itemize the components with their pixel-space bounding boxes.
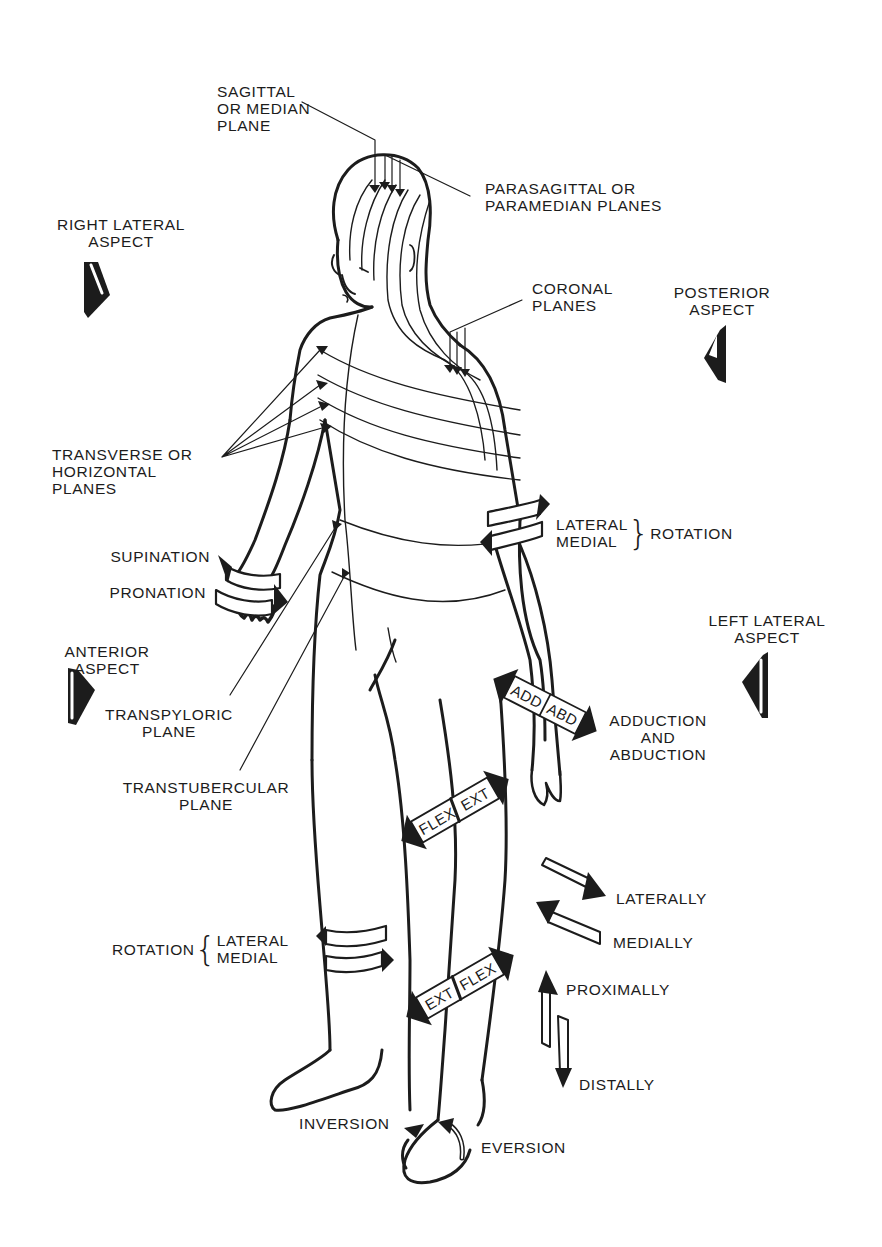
label-arm-rotation: LATERAL MEDIAL }ROTATION <box>556 516 733 550</box>
plane-lines <box>318 180 520 662</box>
medially-arrow <box>536 900 600 944</box>
human-figure <box>234 155 561 1183</box>
label-inversion: INVERSION <box>299 1115 390 1132</box>
label-transpyloric-plane: TRANSPYLORIC PLANE <box>96 706 242 740</box>
distally-arrow <box>555 1016 572 1088</box>
label-proximally: PROXIMALLY <box>566 981 670 998</box>
label-transtubercular-plane: TRANSTUBERCULAR PLANE <box>110 779 302 813</box>
label-laterally: LATERALLY <box>616 890 707 907</box>
label-parasagittal-planes: PARASAGITTAL OR PARAMEDIAN PLANES <box>485 180 662 214</box>
posterior-aspect-marker <box>704 325 726 383</box>
label-anterior-aspect: ANTERIOR ASPECT <box>52 643 162 677</box>
left-lateral-aspect-marker <box>742 652 768 718</box>
label-right-lateral-aspect: RIGHT LATERAL ASPECT <box>45 216 197 250</box>
label-coronal-planes: CORONAL PLANES <box>532 280 613 314</box>
ext-flex-band-lower: EXT FLEX <box>396 938 523 1035</box>
rotation-cuffs <box>216 500 542 972</box>
label-sagittal-plane: SAGITTAL OR MEDIAN PLANE <box>217 83 310 134</box>
label-leg-rotation: ROTATION{ LATERAL MEDIAL <box>112 932 289 966</box>
leader-lines <box>222 102 522 770</box>
label-medially: MEDIALLY <box>613 934 693 951</box>
label-left-lateral-aspect: LEFT LATERAL ASPECT <box>700 612 834 646</box>
label-pronation: PRONATION <box>60 584 206 601</box>
label-transverse-planes: TRANSVERSE OR HORIZONTAL PLANES <box>52 446 192 497</box>
anatomy-diagram: ADD ABD FLEX EXT EXT FLEX <box>0 0 882 1247</box>
label-posterior-aspect: POSTERIOR ASPECT <box>666 284 778 318</box>
laterally-arrow <box>542 858 606 900</box>
right-lateral-aspect-marker <box>84 262 110 318</box>
label-supination: SUPINATION <box>60 548 210 565</box>
label-eversion: EVERSION <box>481 1139 566 1156</box>
proximally-arrow <box>538 970 558 1047</box>
label-adduction-abduction: ADDUCTION AND ABDUCTION <box>598 712 718 763</box>
label-distally: DISTALLY <box>579 1076 655 1093</box>
